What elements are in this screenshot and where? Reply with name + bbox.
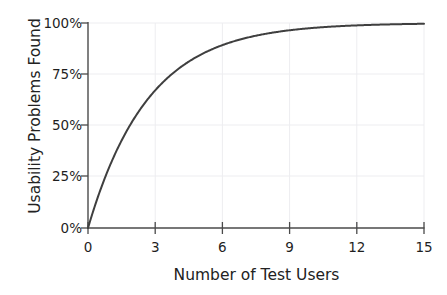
x-tick-label-15: 15 — [404, 239, 444, 255]
x-tick-label-3: 3 — [135, 239, 175, 255]
x-tick-label-9: 9 — [270, 239, 310, 255]
x-tick-label-6: 6 — [202, 239, 242, 255]
x-tick-label-12: 12 — [337, 239, 377, 255]
usability-curve-chart: Usability Problems Found — [0, 0, 447, 295]
x-axis-title: Number of Test Users — [88, 266, 425, 284]
x-axis-tick-labels: 0 3 6 9 12 15 — [0, 0, 447, 295]
x-tick-label-0: 0 — [68, 239, 108, 255]
